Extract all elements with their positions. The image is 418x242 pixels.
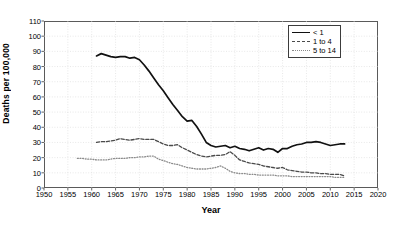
y-axis-title: Deaths per 100,000 bbox=[0, 0, 14, 167]
series-line bbox=[77, 156, 344, 177]
legend-label: 5 to 14 bbox=[313, 46, 336, 55]
x-tick-label: 2000 bbox=[274, 190, 291, 199]
legend-label: < 1 bbox=[313, 28, 324, 37]
y-tick-label: 90 bbox=[33, 47, 41, 56]
x-tick-label: 1995 bbox=[250, 190, 267, 199]
y-tick-label: 20 bbox=[33, 153, 41, 162]
x-tick-label: 1965 bbox=[107, 190, 124, 199]
x-tick-label: 1970 bbox=[131, 190, 148, 199]
x-tick-label: 1990 bbox=[227, 190, 244, 199]
y-tick-label: 110 bbox=[29, 17, 41, 26]
x-tick-label: 1950 bbox=[36, 190, 53, 199]
legend-item-1to4: 1 to 4 bbox=[292, 37, 336, 46]
x-tick-label: 2010 bbox=[322, 190, 339, 199]
x-tick-label: 2020 bbox=[370, 190, 387, 199]
y-tick-label: 100 bbox=[28, 32, 41, 41]
y-tick-label: 70 bbox=[33, 77, 41, 86]
x-tick-label: 1980 bbox=[179, 190, 196, 199]
y-tick-label: 50 bbox=[33, 108, 41, 117]
y-tick-label: 80 bbox=[33, 62, 41, 71]
legend-swatch-solid-icon bbox=[292, 29, 310, 36]
y-tick-label: 40 bbox=[33, 123, 41, 132]
legend-swatch-dotted-icon bbox=[292, 47, 310, 54]
y-axis-tick-labels: 0102030405060708090100110 bbox=[14, 21, 41, 188]
x-tick-label: 2015 bbox=[346, 190, 363, 199]
legend-label: 1 to 4 bbox=[313, 37, 332, 46]
chart-legend: < 1 1 to 4 5 to 14 bbox=[288, 25, 341, 58]
series-line bbox=[96, 54, 344, 153]
x-axis-title: Year bbox=[44, 205, 378, 215]
series-line bbox=[96, 139, 344, 176]
chart-container: Deaths per 100,000 010203040506070809010… bbox=[0, 0, 418, 242]
x-axis-tick-labels: 1950195519601965197019751980198519901995… bbox=[44, 190, 378, 202]
x-tick-label: 1960 bbox=[83, 190, 100, 199]
x-tick-label: 1955 bbox=[60, 190, 77, 199]
legend-item-lt1: < 1 bbox=[292, 28, 336, 37]
x-tick-label: 1985 bbox=[203, 190, 220, 199]
y-tick-label: 30 bbox=[33, 138, 41, 147]
y-tick-label: 60 bbox=[33, 92, 41, 101]
legend-swatch-dashed-icon bbox=[292, 38, 310, 45]
x-tick-label: 2005 bbox=[298, 190, 315, 199]
x-tick-label: 1975 bbox=[155, 190, 172, 199]
legend-item-5to14: 5 to 14 bbox=[292, 46, 336, 55]
y-tick-label: 10 bbox=[33, 168, 41, 177]
